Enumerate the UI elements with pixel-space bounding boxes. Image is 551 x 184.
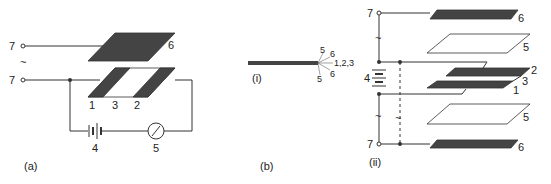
cross-section-bar: [248, 61, 318, 65]
label-2: 2: [134, 99, 140, 111]
panel-a: 7 ~ 7 6 1 3 2 4 5 (a): [9, 33, 192, 172]
plate-6-top: [430, 10, 518, 19]
terminal-7-top: [21, 44, 25, 48]
plate-6: [88, 33, 175, 61]
label-3-ii: 3: [522, 75, 528, 87]
terminal-7-bottom: [21, 78, 25, 82]
label-4-ii: 4: [364, 72, 370, 84]
label-2-ii: 2: [531, 64, 537, 76]
label-5: 5: [153, 142, 159, 154]
label-ac-top: ~: [375, 32, 381, 44]
label-ac: ~: [20, 56, 26, 68]
label-4: 4: [92, 142, 98, 154]
label-6-top-ii: 6: [518, 12, 524, 24]
label-7-top-ii: 7: [367, 7, 373, 19]
label-7-bottom: 7: [9, 74, 15, 86]
label-5-top-ii: 5: [523, 41, 529, 53]
label-7-top: 7: [9, 40, 15, 52]
panel-ii: ~ ~ ~ 4 7 7 6 5 2 3 1 5: [364, 7, 537, 168]
label-b-123: 1,2,3: [334, 58, 354, 68]
electrode-2-ii: [446, 68, 530, 76]
battery-icon-ii: [372, 70, 386, 86]
label-b-5-top: 5: [320, 45, 325, 55]
panel-b: 5 6 1,2,3 6 5 (i) (b): [248, 45, 354, 172]
label-b-6-bottom: 6: [330, 69, 335, 79]
layer-5-bottom: [427, 104, 530, 124]
label-1: 1: [89, 99, 95, 111]
label-7-bottom-ii: 7: [367, 138, 373, 150]
electrode-1-ii: [427, 81, 513, 88]
caption-i: (i): [252, 72, 262, 84]
label-5-bottom-ii: 5: [523, 111, 529, 123]
caption-a: (a): [24, 160, 37, 172]
label-ac-dashed: ~: [395, 112, 401, 124]
battery-icon: [89, 123, 101, 139]
caption-b: (b): [260, 160, 273, 172]
label-1-ii: 1: [513, 84, 519, 96]
label-6: 6: [168, 39, 174, 51]
layer-5-top: [427, 34, 530, 53]
label-b-5-bottom: 5: [317, 74, 322, 84]
label-6-bottom-ii: 6: [518, 141, 524, 153]
diagram-canvas: 7 ~ 7 6 1 3 2 4 5 (a) 5 6 1,2,3 6 5 (i) …: [0, 0, 551, 184]
plate-6-bottom: [430, 140, 518, 148]
caption-ii: (ii): [369, 156, 381, 168]
label-ac-bottom: ~: [375, 110, 381, 122]
label-3: 3: [112, 99, 118, 111]
